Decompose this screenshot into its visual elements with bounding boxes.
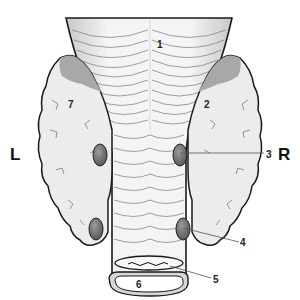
label-4: 4 bbox=[240, 237, 246, 248]
tube-cross-section bbox=[109, 256, 188, 296]
label-6: 6 bbox=[136, 279, 142, 290]
thyroid-diagram: 1 2 3 4 5 6 7 L R bbox=[0, 0, 300, 300]
left-lower-nodule bbox=[89, 218, 103, 240]
label-1: 1 bbox=[157, 39, 163, 50]
side-label-right: R bbox=[278, 145, 290, 164]
label-5: 5 bbox=[213, 274, 219, 285]
side-label-left: L bbox=[10, 145, 20, 164]
label-3: 3 bbox=[266, 149, 272, 160]
right-upper-nodule bbox=[173, 144, 187, 166]
left-upper-nodule bbox=[93, 144, 107, 166]
label-7: 7 bbox=[68, 99, 74, 110]
label-2: 2 bbox=[204, 99, 210, 110]
